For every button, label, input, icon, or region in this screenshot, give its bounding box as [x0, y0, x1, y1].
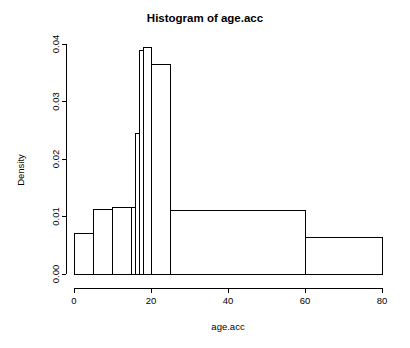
y-axis: 0.000.010.020.030.04	[50, 35, 66, 284]
x-axis-tick-label: 40	[223, 295, 234, 306]
histogram-bar	[93, 210, 112, 274]
y-axis-tick-label: 0.03	[50, 92, 61, 111]
histogram-plot: Histogram of age.acc 0.000.010.020.030.0…	[0, 0, 410, 348]
x-axis-tick-label: 60	[300, 295, 311, 306]
histogram-bar	[151, 64, 170, 274]
histogram-bars	[74, 47, 382, 274]
x-axis: 020406080	[71, 288, 387, 306]
x-axis-title: age.acc	[211, 321, 245, 332]
histogram-bar	[170, 210, 305, 274]
y-axis-title: Density	[15, 154, 26, 186]
chart-title: Histogram of age.acc	[147, 12, 264, 24]
y-axis-tick-label: 0.04	[50, 35, 61, 54]
x-axis-tick-label: 20	[146, 295, 157, 306]
histogram-bar	[139, 51, 143, 274]
histogram-bar	[74, 234, 93, 274]
histogram-bar	[136, 134, 140, 274]
x-axis-tick-label: 0	[71, 295, 76, 306]
histogram-bar	[305, 237, 382, 274]
y-axis-tick-label: 0.00	[50, 265, 61, 284]
chart-canvas: Histogram of age.acc 0.000.010.020.030.0…	[0, 0, 410, 348]
histogram-bar	[143, 47, 151, 274]
y-axis-tick-label: 0.02	[50, 150, 61, 169]
histogram-bar	[132, 207, 136, 274]
y-axis-tick-label: 0.01	[50, 207, 61, 226]
histogram-bar	[113, 207, 132, 274]
x-axis-tick-label: 80	[377, 295, 388, 306]
